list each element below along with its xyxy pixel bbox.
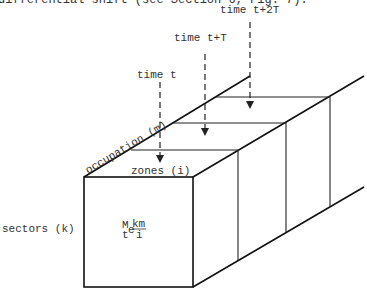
arrow-down-icon xyxy=(201,128,209,136)
arrow-time-t-plus-T xyxy=(201,54,209,136)
arrow-time-t-plus-2T xyxy=(246,22,254,109)
label-zones: zones (i) xyxy=(131,165,190,177)
label-time-t-plus-2T: time t+2T xyxy=(220,4,280,16)
prism-diagram: time t time t+T time t+2T occupation (m)… xyxy=(0,0,367,294)
label-time-t: time t xyxy=(137,69,177,81)
label-time-t-plus-T: time t+T xyxy=(174,32,227,44)
arrow-down-icon xyxy=(246,101,254,109)
cell-formula: M km t e i xyxy=(122,218,146,241)
top-right-edge xyxy=(193,76,364,177)
label-sectors: sectors (k) xyxy=(2,223,75,235)
arrow-down-icon xyxy=(156,155,164,163)
bottom-right-edge xyxy=(193,187,364,287)
svg-text:i: i xyxy=(136,229,143,241)
svg-text:e: e xyxy=(128,224,135,236)
